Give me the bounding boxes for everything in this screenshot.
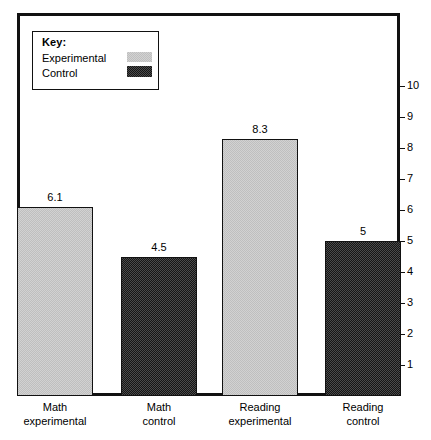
x-axis-category-label: Reading experimental — [205, 400, 315, 428]
bar-chart: 6.1 4.5 8.3 5 1 2 3 4 5 6 7 8 9 10 Math … — [0, 0, 431, 440]
x-axis-category-line1: Math — [147, 401, 171, 413]
y-axis-tick-label: 1 — [407, 359, 427, 370]
y-axis-tick-label: 3 — [407, 297, 427, 308]
legend-entry-label: Experimental — [42, 52, 106, 64]
y-axis-tick-mark — [400, 334, 405, 335]
y-axis-tick-mark — [400, 303, 405, 304]
y-axis-tick-label: 7 — [407, 173, 427, 184]
y-axis-tick-label: 2 — [407, 328, 427, 339]
x-axis-category-line2: control — [308, 414, 418, 428]
x-axis-category-line1: Reading — [240, 401, 281, 413]
x-axis-category-label: Math control — [104, 400, 214, 428]
y-axis-tick-mark — [400, 86, 405, 87]
y-axis-tick-mark — [400, 241, 405, 242]
legend: Key: Experimental Control — [32, 31, 159, 90]
bar-reading-experimental — [222, 139, 298, 396]
y-axis-tick-label: 9 — [407, 111, 427, 122]
x-axis-category-line2: experimental — [205, 414, 315, 428]
bar-value-label: 4.5 — [121, 241, 197, 253]
bar-math-control — [121, 257, 197, 397]
y-axis-tick-label: 8 — [407, 142, 427, 153]
x-axis-category-line2: control — [104, 414, 214, 428]
bar-reading-control — [325, 241, 401, 396]
x-axis-category-label: Math experimental — [0, 400, 110, 428]
x-axis-category-line1: Reading — [343, 401, 384, 413]
y-axis-tick-label: 5 — [407, 235, 427, 246]
y-axis-tick-mark — [400, 179, 405, 180]
legend-title: Key: — [42, 36, 158, 49]
x-axis-category-line2: experimental — [0, 414, 110, 428]
legend-entry-experimental: Experimental — [42, 49, 158, 64]
dark-checker-swatch-icon — [127, 66, 152, 77]
y-axis-tick-mark — [400, 210, 405, 211]
y-axis-tick-mark — [400, 148, 405, 149]
bar-value-label: 5 — [325, 225, 401, 237]
x-axis-category-line1: Math — [43, 401, 67, 413]
bar-math-experimental — [17, 207, 93, 396]
y-axis-tick-label: 4 — [407, 266, 427, 277]
y-axis-tick-label: 10 — [407, 80, 427, 91]
y-axis-tick-mark — [400, 117, 405, 118]
y-axis-tick-mark — [400, 365, 405, 366]
x-axis-category-label: Reading control — [308, 400, 418, 428]
bar-value-label: 8.3 — [222, 123, 298, 135]
bar-value-label: 6.1 — [17, 191, 93, 203]
y-axis-tick-mark — [400, 272, 405, 273]
light-checker-swatch-icon — [127, 52, 152, 62]
y-axis-tick-label: 6 — [407, 204, 427, 215]
legend-entry-control: Control — [42, 64, 158, 79]
legend-entry-label: Control — [42, 67, 77, 79]
